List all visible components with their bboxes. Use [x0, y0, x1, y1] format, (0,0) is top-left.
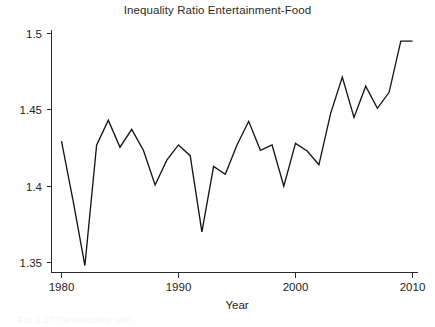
x-tick-marks [62, 273, 413, 279]
y-tick-marks [47, 34, 52, 263]
x-tick-label-3: 2010 [400, 281, 426, 293]
x-axis-title: Year [225, 299, 248, 311]
x-tick-label-0: 1980 [49, 281, 75, 293]
x-tick-label-2: 2000 [283, 281, 309, 293]
y-tick-label-2: 1.4 [26, 181, 43, 193]
y-tick-label-0: 1.5 [26, 28, 42, 40]
figure-caption-partial: Fig. 1.17 The inequality ratio ... [18, 315, 318, 324]
x-tick-label-1: 1990 [166, 281, 192, 293]
chart-figure: Inequality Ratio Entertainment-Food 1.5 … [0, 0, 435, 327]
data-series-line [62, 41, 413, 265]
line-chart-plot: 1.5 1.45 1.4 1.35 1980 1990 2000 2010 Ye… [0, 0, 435, 327]
y-tick-label-1: 1.45 [20, 104, 42, 116]
y-tick-label-3: 1.35 [20, 257, 42, 269]
